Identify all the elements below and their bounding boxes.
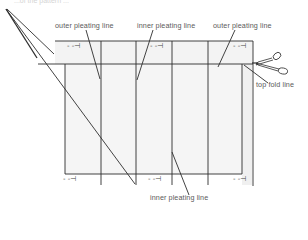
label-outer-pleating-left: outer pleating line xyxy=(55,21,114,30)
label-outer-pleating-right: outer pleating line xyxy=(213,21,272,30)
right-margin-strip xyxy=(242,64,252,185)
label-inner-pleating-top: inner pleating line xyxy=(137,21,195,30)
label-top-fold: top fold line xyxy=(256,80,294,89)
fold-mark-top-3: - -⊣ xyxy=(233,42,246,50)
label-inner-pleating-bottom: inner pleating line xyxy=(150,193,208,202)
fold-mark-bottom-3: - -⊣ xyxy=(233,175,246,183)
fold-mark-top-1: - -⊣ xyxy=(67,42,80,50)
fold-mark-top-2: - -⊣ xyxy=(150,42,163,50)
scissors-icon xyxy=(252,51,288,75)
main-panel xyxy=(65,64,242,174)
fold-mark-bottom-1: - -⊣ xyxy=(63,175,76,183)
fold-mark-bottom-2: - -⊣ xyxy=(148,175,161,183)
